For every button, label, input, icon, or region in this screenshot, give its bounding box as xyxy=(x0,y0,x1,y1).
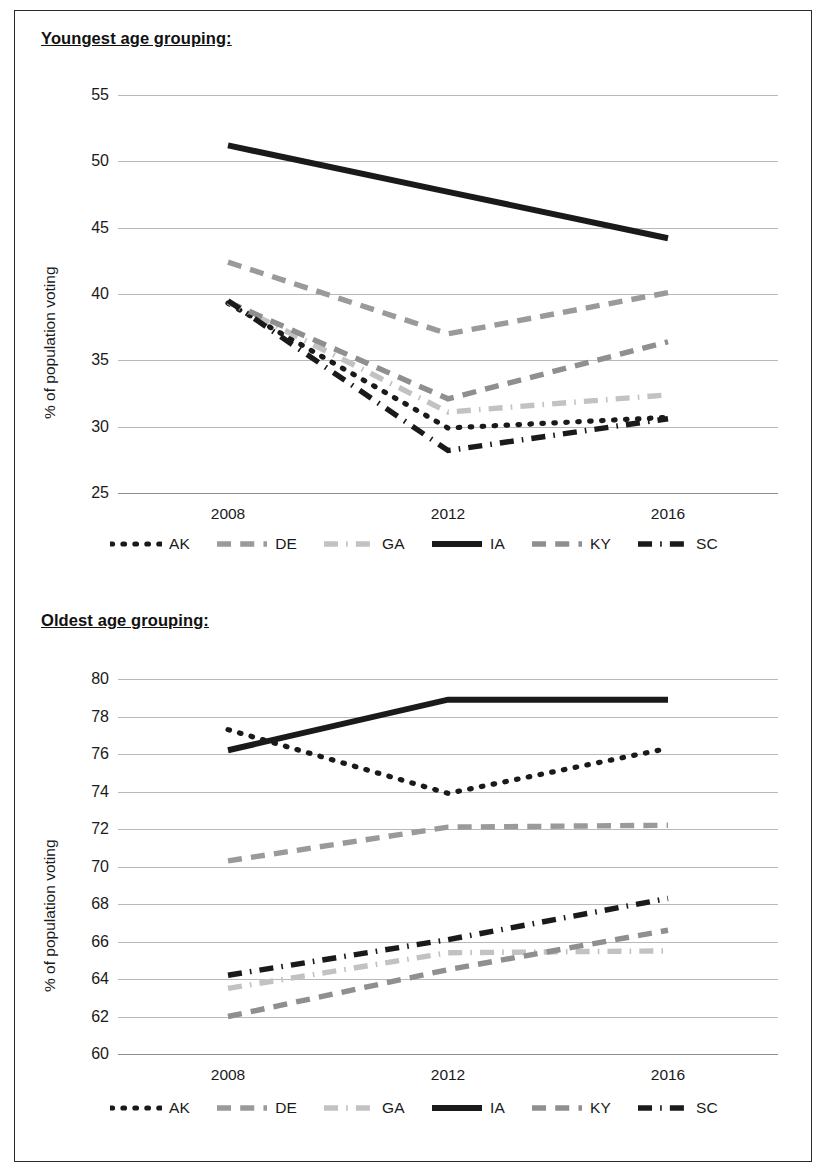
y-axis-tick-label: 74 xyxy=(91,783,109,801)
chart-title-youngest: Youngest age grouping: xyxy=(41,29,232,48)
legend-item-de[interactable]: DE xyxy=(216,1099,297,1117)
legend-item-ga[interactable]: GA xyxy=(323,535,405,553)
plot-area-oldest: 6062646668707274767880200820122016 xyxy=(118,679,778,1054)
y-axis-tick-label: 68 xyxy=(91,895,109,913)
x-axis-tick-label: 2008 xyxy=(211,505,245,523)
legend-label: DE xyxy=(275,535,297,553)
legend-item-sc[interactable]: SC xyxy=(637,535,718,553)
y-axis-tick-label: 62 xyxy=(91,1008,109,1026)
legend-item-ia[interactable]: IA xyxy=(431,535,505,553)
y-axis-tick-label: 72 xyxy=(91,820,109,838)
legend-item-sc[interactable]: SC xyxy=(637,1099,718,1117)
series-line-ia xyxy=(228,700,668,751)
legend-key-ia-icon xyxy=(431,1101,483,1115)
figure-frame: Youngest age grouping: % of population v… xyxy=(14,10,812,1162)
legend-oldest: AKDEGAIAKYSC xyxy=(15,1099,813,1117)
chart-section-youngest: Youngest age grouping: % of population v… xyxy=(15,11,813,587)
x-axis-tick-label: 2016 xyxy=(651,1066,685,1084)
y-axis-tick-label: 40 xyxy=(91,285,109,303)
y-axis-tick-label: 64 xyxy=(91,970,109,988)
legend-key-ak-icon xyxy=(110,1101,162,1115)
x-axis-tick-label: 2012 xyxy=(431,1066,465,1084)
legend-item-de[interactable]: DE xyxy=(216,535,297,553)
legend-key-ga-icon xyxy=(323,1101,375,1115)
series-line-sc xyxy=(228,898,668,975)
series-line-ak xyxy=(228,730,668,794)
y-axis-tick-label: 35 xyxy=(91,351,109,369)
series-layer xyxy=(118,679,778,1054)
series-layer xyxy=(118,95,778,493)
legend-label: AK xyxy=(169,1099,190,1117)
y-axis-label-youngest: % of population voting xyxy=(41,266,59,419)
legend-key-ky-icon xyxy=(531,1101,583,1115)
legend-label: SC xyxy=(696,1099,718,1117)
y-axis-tick-label: 78 xyxy=(91,708,109,726)
legend-key-de-icon xyxy=(216,537,268,551)
legend-youngest: AKDEGAIAKYSC xyxy=(15,535,813,553)
x-axis-tick-label: 2012 xyxy=(431,505,465,523)
y-axis-tick-label: 66 xyxy=(91,933,109,951)
legend-key-ky-icon xyxy=(531,537,583,551)
y-axis-tick-label: 70 xyxy=(91,858,109,876)
chart-title-oldest: Oldest age grouping: xyxy=(41,611,209,630)
legend-label: IA xyxy=(490,1099,505,1117)
legend-label: IA xyxy=(490,535,505,553)
series-line-ky xyxy=(228,302,668,399)
figure-page: Youngest age grouping: % of population v… xyxy=(0,0,826,1173)
legend-label: GA xyxy=(382,535,405,553)
legend-label: SC xyxy=(696,535,718,553)
y-axis-tick-label: 25 xyxy=(91,484,109,502)
plot-area-youngest: 25303540455055200820122016 xyxy=(118,95,778,493)
legend-key-sc-icon xyxy=(637,537,689,551)
x-axis-tick-label: 2008 xyxy=(211,1066,245,1084)
y-axis-tick-label: 45 xyxy=(91,219,109,237)
series-line-de xyxy=(228,262,668,334)
x-axis-tick-label: 2016 xyxy=(651,505,685,523)
legend-label: KY xyxy=(590,1099,611,1117)
y-axis-tick-label: 80 xyxy=(91,670,109,688)
y-axis-label-oldest: % of population voting xyxy=(41,839,59,992)
legend-item-ga[interactable]: GA xyxy=(323,1099,405,1117)
legend-item-ky[interactable]: KY xyxy=(531,1099,611,1117)
y-axis-tick-label: 30 xyxy=(91,418,109,436)
series-line-ky xyxy=(228,930,668,1016)
legend-key-ak-icon xyxy=(110,537,162,551)
series-line-ga xyxy=(228,951,668,989)
legend-item-ak[interactable]: AK xyxy=(110,535,190,553)
x-axis-line xyxy=(118,493,778,494)
chart-section-oldest: Oldest age grouping: % of population vot… xyxy=(15,587,813,1163)
legend-item-ia[interactable]: IA xyxy=(431,1099,505,1117)
legend-label: DE xyxy=(275,1099,297,1117)
series-line-ia xyxy=(228,145,668,238)
y-axis-tick-label: 60 xyxy=(91,1045,109,1063)
x-axis-line xyxy=(118,1054,778,1055)
series-line-ak xyxy=(228,303,668,428)
y-axis-tick-label: 55 xyxy=(91,86,109,104)
legend-key-de-icon xyxy=(216,1101,268,1115)
legend-key-ia-icon xyxy=(431,537,483,551)
y-axis-tick-label: 50 xyxy=(91,152,109,170)
legend-label: KY xyxy=(590,535,611,553)
y-axis-tick-label: 76 xyxy=(91,745,109,763)
legend-key-ga-icon xyxy=(323,537,375,551)
legend-item-ak[interactable]: AK xyxy=(110,1099,190,1117)
legend-key-sc-icon xyxy=(637,1101,689,1115)
legend-label: GA xyxy=(382,1099,405,1117)
series-line-de xyxy=(228,825,668,861)
legend-item-ky[interactable]: KY xyxy=(531,535,611,553)
legend-label: AK xyxy=(169,535,190,553)
